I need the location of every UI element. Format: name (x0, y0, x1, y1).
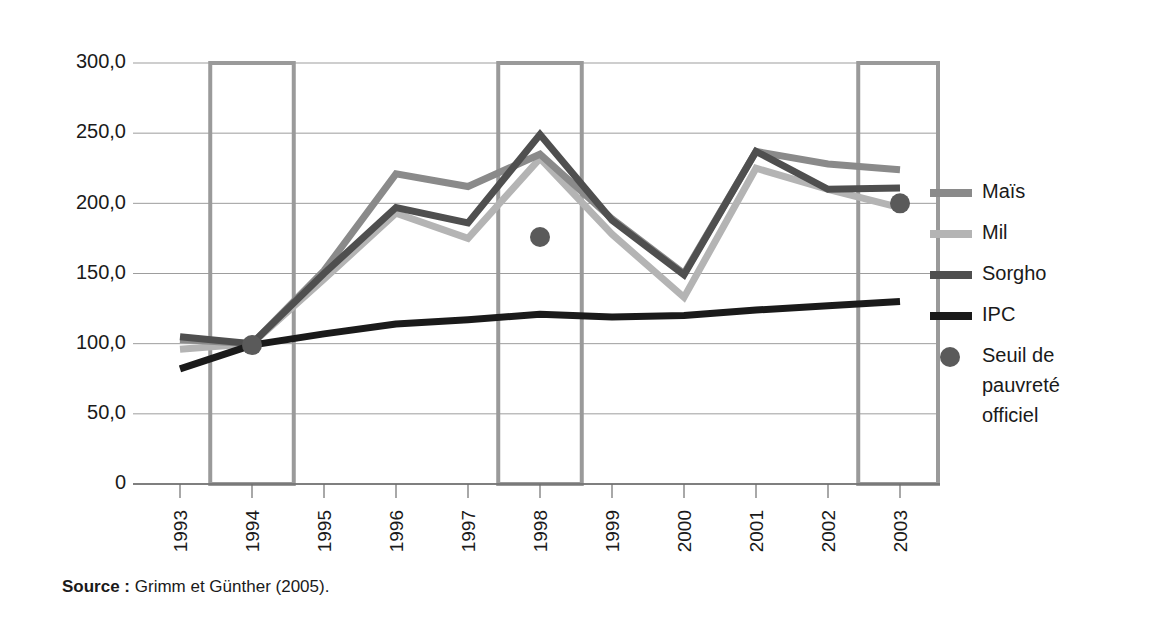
legend-label-seuil-de-pauvrete-officiel: pauvreté (982, 374, 1060, 396)
y-tick-label: 0 (115, 471, 126, 493)
x-tick-label: 1995 (314, 510, 335, 552)
source-text: Grimm et Günther (2005). (130, 577, 329, 596)
data-series (180, 135, 900, 369)
x-tick-label: 1994 (242, 510, 263, 553)
gridlines (133, 63, 940, 484)
poverty-threshold-dot (890, 193, 910, 213)
x-tick-label: 2002 (818, 510, 839, 552)
y-axis-tick-labels: 300,0250,0200,0150,0100,050,00 (76, 50, 126, 493)
x-tick-label: 1999 (602, 510, 623, 552)
y-tick-label: 300,0 (76, 50, 126, 72)
y-tick-label: 100,0 (76, 331, 126, 353)
series-line-mil (180, 158, 900, 349)
y-tick-label: 50,0 (87, 401, 126, 423)
x-tick-label: 1993 (170, 510, 191, 552)
x-tick-label: 1998 (530, 510, 551, 552)
source-note: Source : Grimm et Günther (2005). (62, 577, 329, 597)
chart-figure: 300,0250,0200,0150,0100,050,00 199319941… (0, 0, 1164, 630)
poverty-threshold-dot (242, 335, 262, 355)
legend-label-seuil-de-pauvrete-officiel: Seuil de (982, 344, 1054, 366)
legend-marker-dot (940, 347, 960, 367)
y-tick-label: 150,0 (76, 261, 126, 283)
x-tick-label: 2003 (890, 510, 911, 552)
legend-label-mas: Maïs (982, 180, 1025, 202)
axes (133, 484, 940, 498)
legend-label-ipc: IPC (982, 303, 1015, 325)
x-tick-label: 2001 (746, 510, 767, 552)
source-label: Source : (62, 577, 130, 596)
legend-label-seuil-de-pauvrete-officiel: officiel (982, 404, 1038, 426)
y-tick-label: 200,0 (76, 191, 126, 213)
y-tick-label: 250,0 (76, 120, 126, 142)
x-axis-tick-labels: 1993199419951996199719981999200020012002… (170, 510, 911, 553)
x-tick-label: 1996 (386, 510, 407, 552)
price-index-line-chart: 300,0250,0200,0150,0100,050,00 199319941… (0, 0, 1164, 630)
x-tick-label: 2000 (674, 510, 695, 552)
legend-label-mil: Mil (982, 221, 1008, 243)
legend-label-sorgho: Sorgho (982, 262, 1047, 284)
chart-legend: MaïsMilSorghoIPCSeuil depauvretéofficiel (930, 180, 1060, 426)
x-tick-label: 1997 (458, 510, 479, 552)
poverty-threshold-dot (530, 227, 550, 247)
